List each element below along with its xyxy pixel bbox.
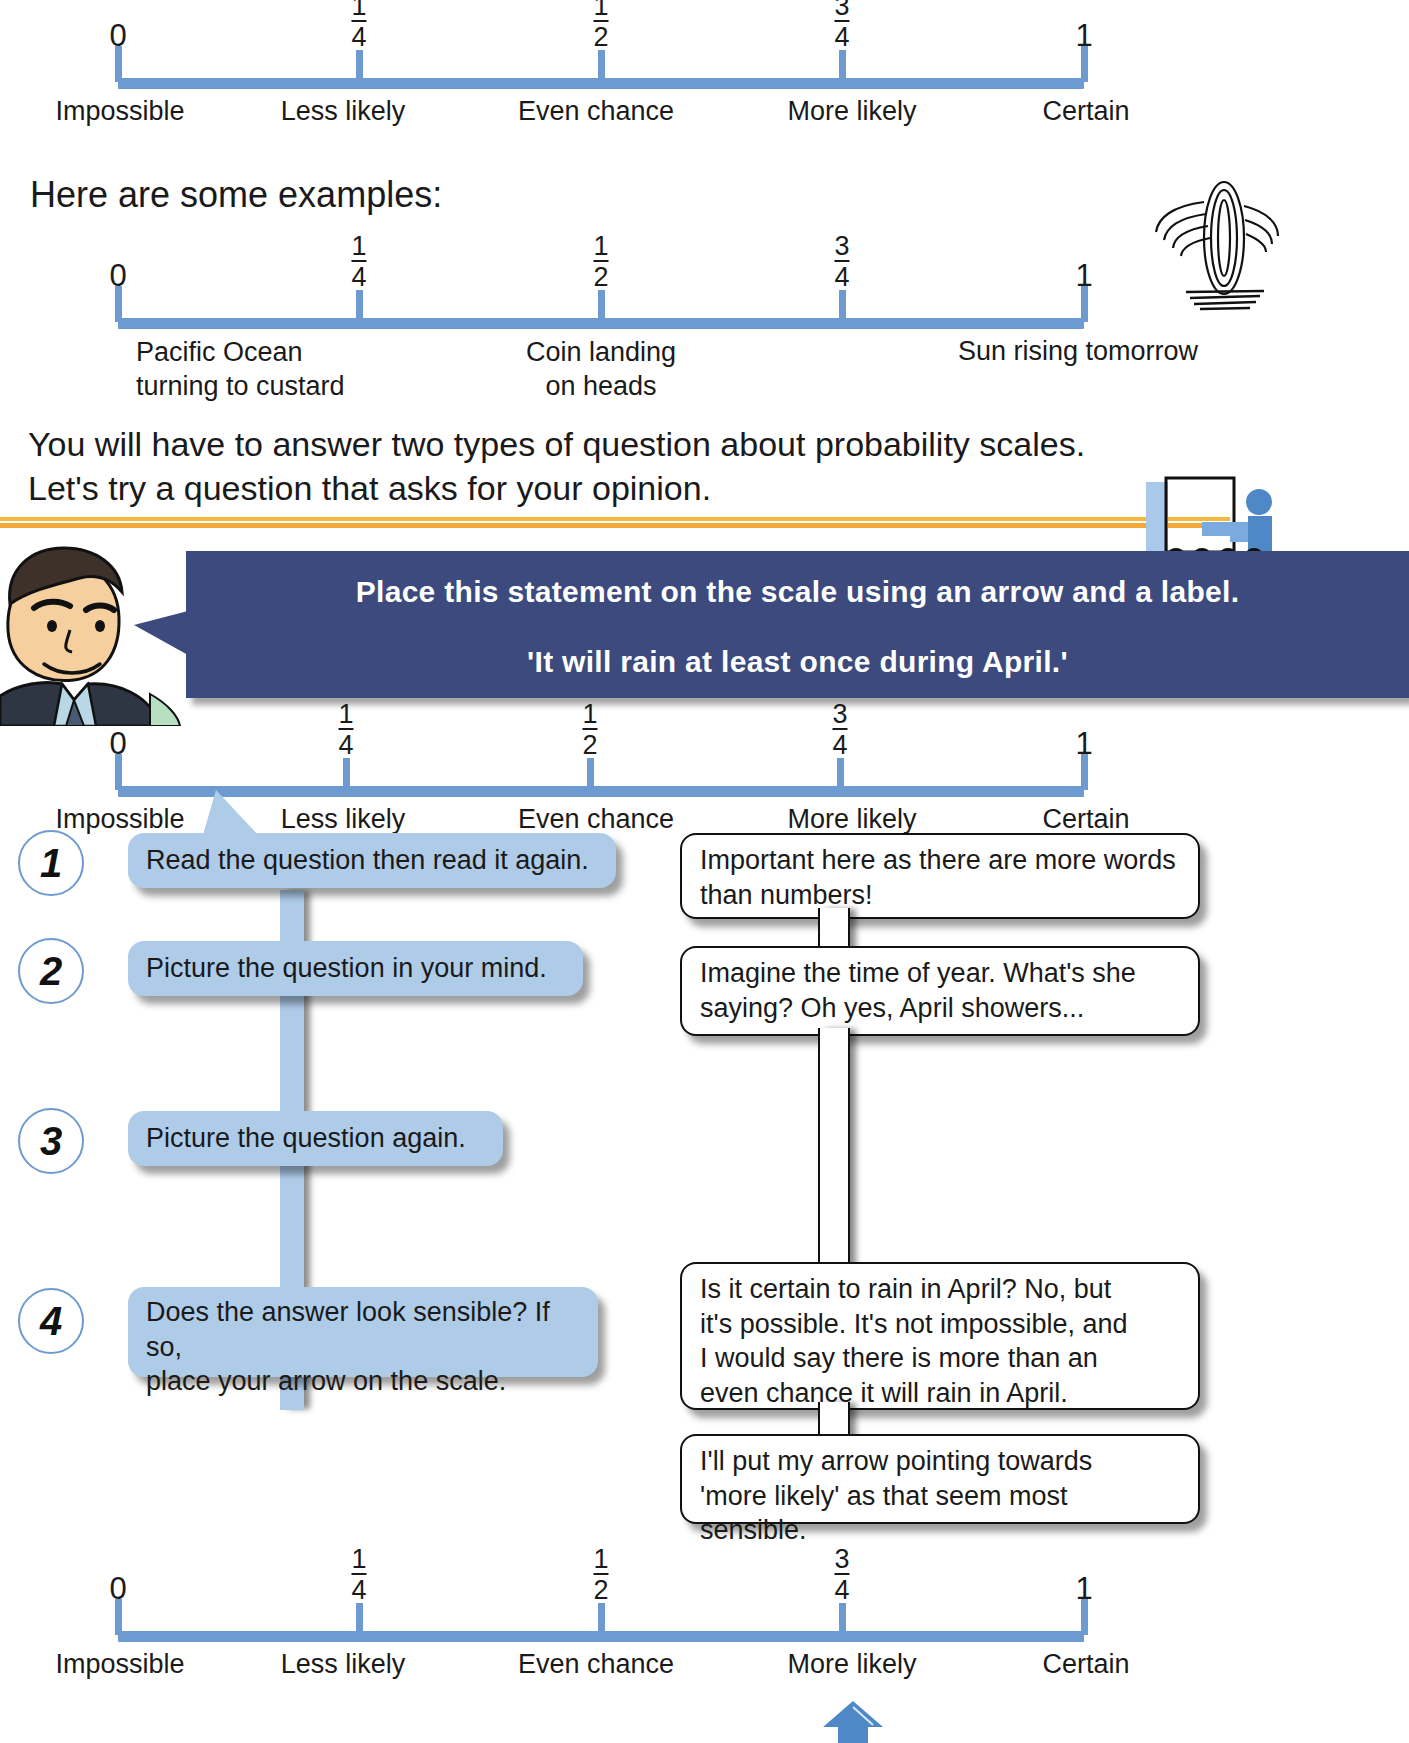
step-number-3: 3 bbox=[18, 1108, 84, 1174]
scale-label-more-likely: More likely bbox=[787, 1649, 916, 1680]
scale-label-less-likely: Less likely bbox=[281, 96, 406, 127]
teacher-character-icon bbox=[0, 534, 190, 726]
intro-paragraph: You will have to answer two types of que… bbox=[28, 423, 1168, 510]
scale-number-quarter: 14 bbox=[338, 700, 353, 760]
scale-tick-three-quarter bbox=[837, 758, 844, 790]
step-1-action-bubble: Read the question then read it again. bbox=[128, 833, 616, 888]
scale-tick-three-quarter bbox=[839, 1603, 846, 1635]
scale-number-0: 0 bbox=[109, 728, 126, 759]
scale-label-impossible: Impossible bbox=[55, 804, 184, 835]
scale-number-three-quarter: 34 bbox=[834, 232, 849, 292]
step-number-2: 2 bbox=[18, 938, 84, 1004]
scale-label-impossible: Impossible bbox=[55, 96, 184, 127]
label-line-2: turning to custard bbox=[136, 371, 345, 401]
scale-tick-quarter bbox=[356, 290, 363, 322]
label-line-1: Pacific Ocean bbox=[136, 337, 303, 367]
scale-tick-half bbox=[598, 50, 605, 82]
banner-line-2: 'It will rain at least once during April… bbox=[204, 645, 1391, 679]
banner-line-1: Place this statement on the scale using … bbox=[204, 575, 1391, 609]
step-4-action-bubble: Does the answer look sensible? If so, pl… bbox=[128, 1287, 598, 1377]
examples-heading: Here are some examples: bbox=[30, 172, 442, 218]
scale-number-0: 0 bbox=[109, 1573, 126, 1604]
scale-label-certain: Certain bbox=[1042, 804, 1129, 835]
scale-number-three-quarter: 34 bbox=[834, 1545, 849, 1605]
probability-scale-answer: 0 14 12 34 1 Impossible Less likely Even… bbox=[118, 1545, 1084, 1695]
scale-tick-half bbox=[598, 1603, 605, 1635]
scale-number-three-quarter: 34 bbox=[834, 0, 849, 52]
scale-number-half: 12 bbox=[593, 232, 608, 292]
scale-number-three-quarter: 34 bbox=[832, 700, 847, 760]
scale-tick-three-quarter bbox=[839, 290, 846, 322]
flow-connector-right-2 bbox=[818, 1028, 850, 1278]
scale-tick-quarter bbox=[356, 50, 363, 82]
scale-number-quarter: 14 bbox=[351, 1545, 366, 1605]
step-number-1: 1 bbox=[18, 830, 84, 896]
probability-scale-examples: 0 14 12 34 1 Pacific Ocean turning to cu… bbox=[118, 232, 1084, 382]
scale-tick-three-quarter bbox=[839, 50, 846, 82]
probability-scale-top: 0 14 12 34 1 Impossible Less likely Even… bbox=[118, 0, 1084, 142]
step-2-thought-bubble: Imagine the time of year. What's she say… bbox=[680, 946, 1200, 1036]
scale-label-even-chance: Even chance bbox=[518, 96, 674, 127]
step-3-action-bubble: Picture the question again. bbox=[128, 1111, 503, 1166]
scale-label-certain: Certain bbox=[1042, 1649, 1129, 1680]
label-line-1: Coin landing bbox=[526, 337, 676, 367]
scale-number-quarter: 14 bbox=[351, 0, 366, 52]
scale-number-1: 1 bbox=[1075, 260, 1092, 291]
answer-arrow-icon bbox=[821, 1701, 885, 1743]
question-banner: Place this statement on the scale using … bbox=[186, 551, 1409, 698]
scale-number-1: 1 bbox=[1075, 1573, 1092, 1604]
scale-label-coin-landing: Coin landing on heads bbox=[526, 336, 676, 404]
scale-number-1: 1 bbox=[1075, 728, 1092, 759]
step-3-thought-bubble: Is it certain to rain in April? No, but … bbox=[680, 1262, 1200, 1410]
scale-number-half: 12 bbox=[593, 0, 608, 52]
scale-number-0: 0 bbox=[109, 20, 126, 51]
step-2-action-bubble: Picture the question in your mind. bbox=[128, 941, 583, 996]
scale-tick-half bbox=[598, 290, 605, 322]
scale-number-quarter: 14 bbox=[351, 232, 366, 292]
scale-label-pacific-ocean: Pacific Ocean turning to custard bbox=[136, 336, 345, 404]
step-1-thought-bubble: Important here as there are more words t… bbox=[680, 833, 1200, 919]
scale-label-less-likely: Less likely bbox=[281, 1649, 406, 1680]
scale-label-more-likely: More likely bbox=[787, 96, 916, 127]
scale-number-half: 12 bbox=[593, 1545, 608, 1605]
scale-label-sun-rising: Sun rising tomorrow bbox=[958, 336, 1198, 367]
scale-label-certain: Certain bbox=[1042, 96, 1129, 127]
step-4-thought-bubble: I'll put my arrow pointing towards 'more… bbox=[680, 1434, 1200, 1524]
step-number-4: 4 bbox=[18, 1288, 84, 1354]
spinning-coin-icon bbox=[1128, 172, 1288, 317]
scale-tick-quarter bbox=[343, 758, 350, 790]
scale-label-less-likely: Less likely bbox=[281, 804, 406, 835]
scale-label-impossible: Impossible bbox=[55, 1649, 184, 1680]
scale-number-half: 12 bbox=[582, 700, 597, 760]
scale-label-even-chance: Even chance bbox=[518, 804, 674, 835]
scale-number-1: 1 bbox=[1075, 20, 1092, 51]
label-line-2: on heads bbox=[545, 371, 656, 401]
scale-label-even-chance: Even chance bbox=[518, 1649, 674, 1680]
scale-tick-quarter bbox=[356, 1603, 363, 1635]
scale-number-0: 0 bbox=[109, 260, 126, 291]
scale-label-more-likely: More likely bbox=[787, 804, 916, 835]
scale-tick-half bbox=[587, 758, 594, 790]
orange-divider bbox=[0, 517, 1230, 531]
